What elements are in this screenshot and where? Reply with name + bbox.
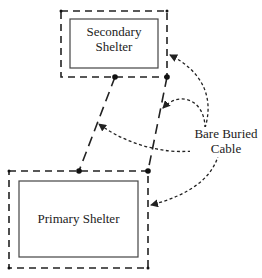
cable-right	[148, 77, 167, 171]
annotation-label: Bare Buried Cable	[190, 127, 262, 157]
secondary-shelter-label: Secondary Shelter	[70, 25, 158, 55]
primary-label: Primary Shelter	[19, 212, 138, 227]
corner-dot	[60, 10, 63, 13]
arrow-to-right-cable	[163, 99, 205, 128]
corner-dot	[166, 10, 169, 13]
cable-left	[79, 77, 115, 171]
diagram-canvas: Secondary Shelter Primary Shelter Bare B…	[0, 0, 262, 278]
junction-dot	[164, 74, 170, 80]
corner-dot	[147, 267, 150, 270]
primary-shelter-label: Primary Shelter	[19, 212, 138, 227]
annotation-line2: Cable	[190, 142, 262, 157]
annotation-line1: Bare Buried	[190, 127, 262, 142]
junction-dot	[112, 74, 118, 80]
junction-dot	[76, 168, 82, 174]
secondary-label-line2: Shelter	[70, 40, 158, 55]
corner-dot	[8, 267, 11, 270]
arrow-to-secondary-ring	[170, 55, 208, 128]
junction-dot	[145, 168, 151, 174]
corner-dot	[8, 170, 11, 173]
secondary-label-line1: Secondary	[70, 25, 158, 40]
